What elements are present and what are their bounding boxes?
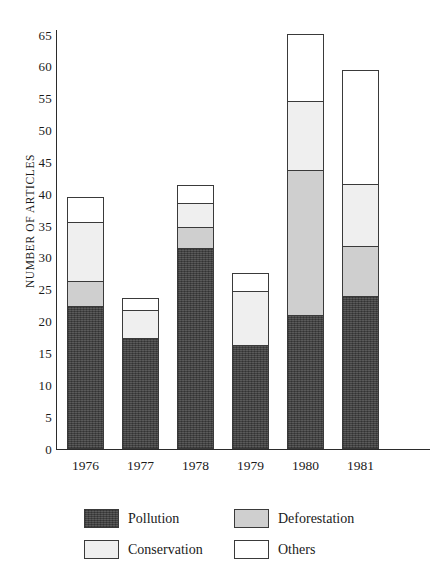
y-tick-label: 0 — [22, 443, 52, 456]
bar-1980 — [287, 34, 324, 449]
y-axis-title: NUMBER OF ARTICLES — [24, 131, 36, 311]
bar-1979 — [232, 273, 269, 449]
y-tick-label: 20 — [22, 315, 52, 328]
x-tick-label-1976: 1976 — [56, 458, 116, 474]
x-tick-label-1979: 1979 — [221, 458, 281, 474]
legend-item-deforestation: Deforestation — [234, 509, 404, 528]
bar-1981 — [342, 70, 379, 449]
bar-segment-pollution — [122, 338, 159, 449]
x-tick-label-1981: 1981 — [331, 458, 391, 474]
bar-segment-conservation — [342, 184, 379, 248]
y-tick-label: 10 — [22, 379, 52, 392]
legend-item-conservation: Conservation — [84, 540, 234, 559]
legend-swatch-conservation — [84, 540, 119, 559]
legend-label: Conservation — [128, 542, 203, 558]
bar-1976 — [67, 197, 104, 449]
chart-legend: PollutionDeforestationConservationOthers — [84, 503, 404, 565]
y-tick-label: 15 — [22, 347, 52, 360]
bar-segment-pollution — [287, 315, 324, 449]
bar-segment-others — [342, 70, 379, 185]
bar-1978 — [177, 185, 214, 449]
bar-segment-pollution — [232, 345, 269, 449]
bar-1977 — [122, 298, 159, 449]
legend-label: Pollution — [128, 511, 179, 527]
legend-swatch-deforestation — [234, 509, 269, 528]
bar-segment-others — [67, 197, 104, 222]
bar-segment-deforestation — [342, 246, 379, 297]
bar-segment-deforestation — [67, 281, 104, 306]
bar-segment-pollution — [177, 248, 214, 449]
bar-segment-conservation — [177, 203, 214, 228]
y-tick-label: 65 — [22, 29, 52, 42]
bar-segment-conservation — [122, 310, 159, 339]
legend-label: Others — [278, 542, 315, 558]
x-tick-label-1978: 1978 — [166, 458, 226, 474]
bar-segment-deforestation — [177, 227, 214, 249]
bar-segment-conservation — [232, 291, 269, 346]
legend-swatch-others — [234, 540, 269, 559]
bar-chart: 05101520253035404550556065 NUMBER OF ART… — [0, 0, 431, 581]
y-tick-label: 55 — [22, 92, 52, 105]
y-tick-label: 5 — [22, 411, 52, 424]
bar-segment-conservation — [287, 101, 324, 171]
bar-segment-conservation — [67, 222, 104, 283]
bar-segment-pollution — [67, 306, 104, 449]
bar-segment-pollution — [342, 296, 379, 449]
legend-label: Deforestation — [278, 511, 354, 527]
legend-item-others: Others — [234, 540, 404, 559]
x-tick-label-1980: 1980 — [276, 458, 336, 474]
x-axis-line — [56, 449, 430, 450]
bar-segment-others — [177, 185, 214, 204]
x-tick-label-1977: 1977 — [111, 458, 171, 474]
plot-area — [56, 30, 430, 449]
y-tick-label: 60 — [22, 60, 52, 73]
bar-segment-deforestation — [287, 170, 324, 316]
bar-segment-others — [232, 273, 269, 292]
bar-segment-others — [287, 34, 324, 102]
legend-swatch-pollution — [84, 509, 119, 528]
legend-item-pollution: Pollution — [84, 509, 234, 528]
